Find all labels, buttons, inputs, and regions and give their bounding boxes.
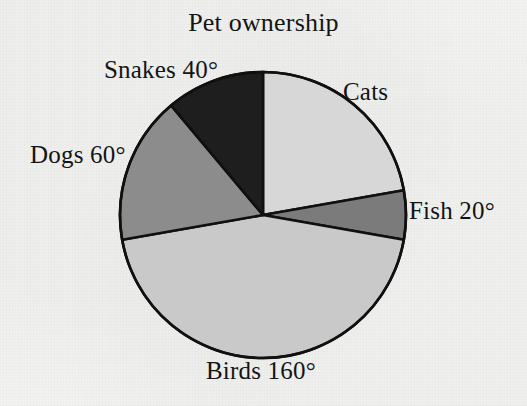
slice-label-dogs: Dogs 60°	[30, 141, 126, 169]
pie-slice-group	[120, 72, 406, 358]
pie-slice-birds	[122, 215, 404, 358]
pie-chart-figure: Pet ownership Snakes 40° Cats Dogs 60° F…	[0, 0, 527, 406]
slice-label-birds: Birds 160°	[206, 357, 316, 385]
slice-label-snakes: Snakes 40°	[104, 56, 218, 84]
slice-label-fish: Fish 20°	[409, 197, 495, 225]
slice-label-cats: Cats	[343, 78, 388, 106]
